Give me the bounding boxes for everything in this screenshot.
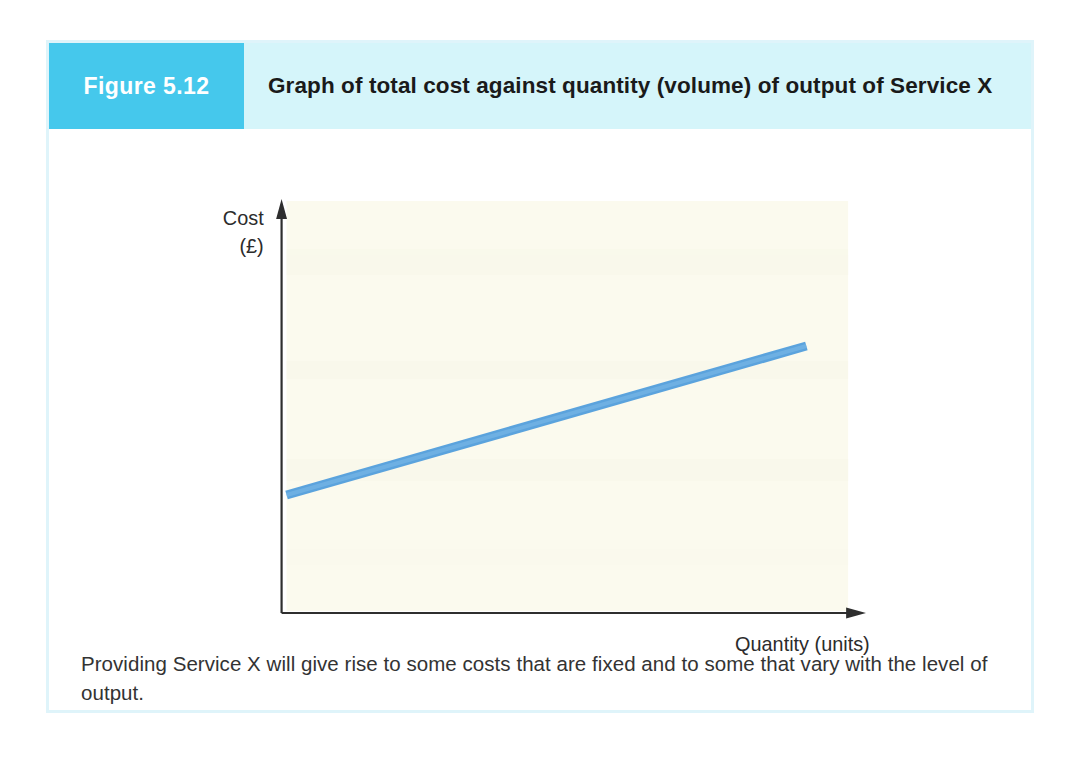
cost-volume-line-chart: Cost (£) Quantity (units) bbox=[49, 129, 1031, 656]
figure-number-badge: Figure 5.12 bbox=[49, 43, 244, 129]
figure-caption: Providing Service X will give rise to so… bbox=[49, 649, 1031, 707]
x-axis-arrowhead bbox=[846, 608, 866, 619]
chart-region: Cost (£) Quantity (units) bbox=[49, 129, 1031, 656]
figure-title: Graph of total cost against quantity (vo… bbox=[244, 43, 1031, 129]
figure-card: Figure 5.12 Graph of total cost against … bbox=[46, 40, 1034, 713]
y-axis-label-line1: Cost bbox=[223, 207, 264, 229]
y-axis bbox=[276, 199, 287, 613]
figure-page: Figure 5.12 Graph of total cost against … bbox=[0, 0, 1080, 758]
figure-header: Figure 5.12 Graph of total cost against … bbox=[49, 43, 1031, 129]
y-axis-label-line2: (£) bbox=[239, 235, 263, 257]
y-axis-arrowhead bbox=[276, 199, 287, 219]
